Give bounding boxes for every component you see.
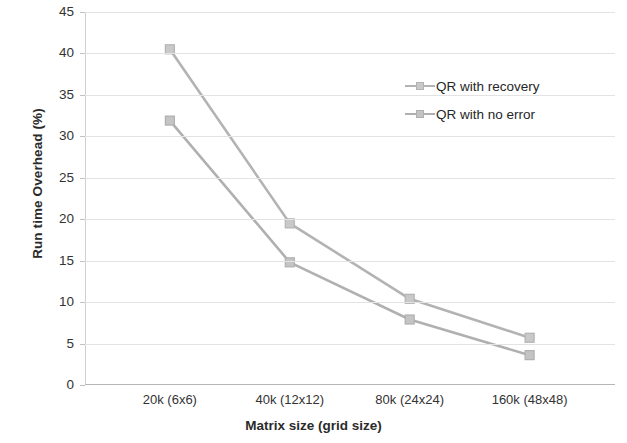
data-point-marker <box>165 45 174 54</box>
gridline <box>85 12 615 13</box>
y-tick-mark <box>80 385 85 386</box>
gridline <box>85 136 615 137</box>
y-tick-mark <box>80 302 85 303</box>
x-axis-title: Matrix size (grid size) <box>0 418 627 433</box>
y-tick-label: 10 <box>36 295 74 309</box>
legend-item: QR with recovery <box>405 72 605 100</box>
x-tick-label: 80k (24x24) <box>375 392 444 407</box>
data-point-marker <box>525 351 534 360</box>
y-tick-label: 0 <box>36 378 74 392</box>
y-tick-mark <box>80 53 85 54</box>
gridline <box>85 261 615 262</box>
y-tick-label: 15 <box>36 254 74 268</box>
chart-legend: QR with recoveryQR with no error <box>405 72 605 128</box>
legend-item: QR with no error <box>405 100 605 128</box>
y-tick-mark <box>80 261 85 262</box>
y-tick-mark <box>80 178 85 179</box>
x-tick-label: 160k (48x48) <box>492 392 568 407</box>
legend-label: QR with no error <box>435 107 535 122</box>
y-tick-label: 45 <box>36 5 74 19</box>
y-tick-mark <box>80 219 85 220</box>
data-point-marker <box>525 333 534 342</box>
plot-area <box>85 12 615 385</box>
data-point-marker <box>285 258 294 267</box>
y-tick-mark <box>80 12 85 13</box>
y-tick-label: 40 <box>36 46 74 60</box>
y-tick-mark <box>80 95 85 96</box>
gridline <box>85 178 615 179</box>
y-tick-label: 5 <box>36 337 74 351</box>
legend-marker-icon <box>405 107 435 121</box>
gridline <box>85 344 615 345</box>
y-tick-label: 35 <box>36 88 74 102</box>
x-tick-label: 20k (6x6) <box>143 392 197 407</box>
x-tick-label: 40k (12x12) <box>255 392 324 407</box>
y-tick-label: 25 <box>36 171 74 185</box>
data-point-marker <box>405 315 414 324</box>
line-chart: Run time Overhead (%) 051015202530354045… <box>0 0 627 443</box>
series-layer <box>85 12 615 385</box>
legend-label: QR with recovery <box>435 79 540 94</box>
y-tick-mark <box>80 344 85 345</box>
legend-marker-icon <box>405 79 435 93</box>
x-axis-tick-labels: 20k (6x6)40k (12x12)80k (24x24)160k (48x… <box>85 392 615 414</box>
y-tick-label: 20 <box>36 212 74 226</box>
gridline <box>85 302 615 303</box>
gridline <box>85 219 615 220</box>
y-tick-label: 30 <box>36 129 74 143</box>
y-tick-mark <box>80 136 85 137</box>
data-point-marker <box>165 116 174 125</box>
gridline <box>85 53 615 54</box>
y-axis-tick-labels: 051015202530354045 <box>20 0 74 443</box>
